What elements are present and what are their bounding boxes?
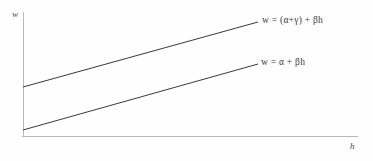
x-axis-label: h [350, 141, 355, 151]
wage-schooling-figure: w h w = (α+γ) + βh w = α + βh [0, 0, 373, 161]
upper-line-equation-label: w = (α+γ) + βh [262, 15, 323, 25]
y-axis-label: w [12, 9, 18, 19]
regression-line-upper [23, 22, 258, 87]
regression-line-lower [23, 64, 258, 130]
lower-line-equation-label: w = α + βh [261, 57, 305, 67]
